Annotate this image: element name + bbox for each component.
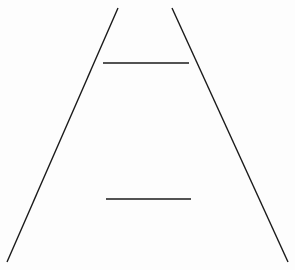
left-converging-line bbox=[7, 8, 118, 262]
ponzo-diagram bbox=[0, 0, 295, 270]
right-converging-line bbox=[172, 8, 288, 262]
diagram-svg bbox=[0, 0, 295, 270]
